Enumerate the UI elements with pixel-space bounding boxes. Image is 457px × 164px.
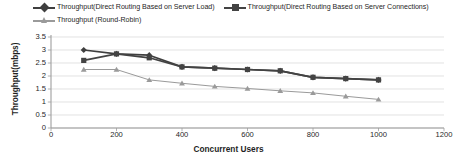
x-tick-label-600: 600 (228, 130, 268, 139)
throughput-line-chart: Throughput(Direct Routing Based on Serve… (0, 0, 457, 164)
y-tick-label-1: 1 (16, 97, 46, 106)
data-point-square-1-2 (147, 55, 152, 60)
legend-marker-square-icon (224, 3, 246, 12)
legend-row-1: Throughput(Direct Routing Based on Serve… (33, 3, 438, 12)
plot-canvas (0, 28, 457, 132)
y-tick-label-2.5: 2.5 (16, 58, 46, 67)
data-point-square-1-3 (179, 64, 184, 69)
y-tick-label-2: 2 (16, 71, 46, 80)
x-axis-title: Concurrent Users (0, 144, 457, 154)
y-tick-label-3: 3 (16, 45, 46, 54)
data-point-square-1-7 (310, 75, 315, 80)
series-line-2 (84, 70, 379, 100)
y-tick-label-0.5: 0.5 (16, 110, 46, 119)
y-axis-tick-labels: 00.511.522.533.5 (14, 28, 46, 128)
data-point-square-1-4 (212, 66, 217, 71)
chart-legend: Throughput(Direct Routing Based on Serve… (0, 0, 457, 30)
x-axis-tick-labels: 020040060080010001200 (0, 130, 457, 144)
data-point-square-1-8 (343, 76, 348, 81)
data-point-square-1-0 (81, 58, 86, 63)
legend-label-server-load: Throughput(Direct Routing Based on Serve… (57, 3, 215, 12)
legend-item-server-load: Throughput(Direct Routing Based on Serve… (33, 3, 215, 12)
x-tick-label-1200: 1200 (424, 130, 457, 139)
legend-label-round-robin: Throughput (Round-Robin) (57, 16, 141, 25)
data-point-square-1-1 (114, 51, 119, 56)
data-point-square-1-5 (245, 67, 250, 72)
y-tick-label-3.5: 3.5 (16, 32, 46, 41)
plot-area-wrapper: Throughput(mbps) 00.511.522.533.5 020040… (0, 28, 457, 164)
legend-item-server-connections: Throughput(Direct Routing Based on Serve… (224, 3, 429, 12)
legend-label-server-connections: Throughput(Direct Routing Based on Serve… (248, 3, 429, 12)
x-tick-label-200: 200 (97, 130, 137, 139)
x-tick-label-800: 800 (293, 130, 333, 139)
data-point-diamond-0-0 (81, 47, 87, 53)
data-point-square-1-6 (278, 68, 283, 73)
legend-marker-triangle-icon (33, 16, 55, 25)
y-tick-label-1.5: 1.5 (16, 84, 46, 93)
x-tick-label-400: 400 (162, 130, 202, 139)
legend-item-round-robin: Throughput (Round-Robin) (33, 16, 141, 25)
legend-row-2: Throughput (Round-Robin) (33, 16, 150, 25)
legend-marker-diamond-icon (33, 3, 55, 12)
x-tick-label-1000: 1000 (359, 130, 399, 139)
x-tick-label-0: 0 (31, 130, 71, 139)
data-point-square-1-9 (376, 77, 381, 82)
